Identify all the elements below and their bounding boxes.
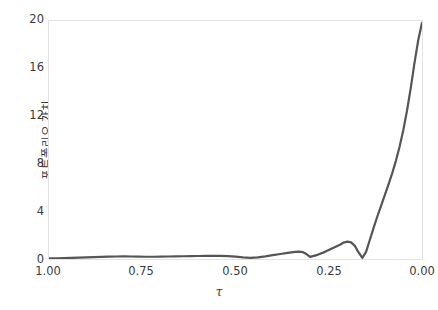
y-tick-label-20: 20 xyxy=(10,14,44,26)
x-tick-label-0-50: 0.50 xyxy=(205,266,265,278)
plot-area xyxy=(48,20,423,260)
x-axis-label: τ xyxy=(0,285,438,299)
x-tick-label-0-00: 0.00 xyxy=(392,266,438,278)
x-tick-label-1-00: 1.00 xyxy=(18,266,78,278)
x-tick-label-0-25: 0.25 xyxy=(299,266,359,278)
y-tick-label-12: 12 xyxy=(10,110,44,122)
y-tick-label-16: 16 xyxy=(10,62,44,74)
chart-figure: 포트폴리오 가치 20 16 12 8 4 0 1.00 0.75 0.50 0… xyxy=(0,0,438,310)
x-tick-label-0-75: 0.75 xyxy=(111,266,171,278)
data-curve xyxy=(49,21,422,259)
y-tick-label-4: 4 xyxy=(10,206,44,218)
y-tick-label-8: 8 xyxy=(10,158,44,170)
